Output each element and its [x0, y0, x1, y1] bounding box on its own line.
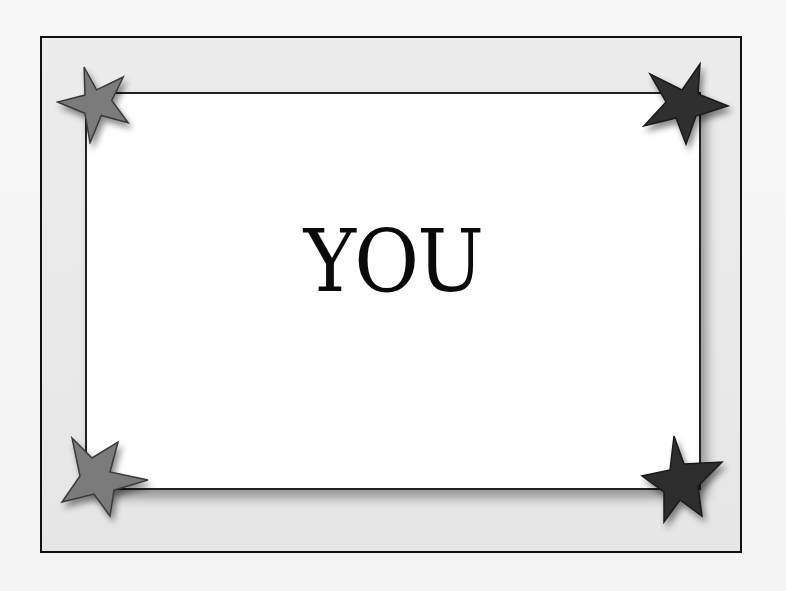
star-icon-bottom-left: [58, 436, 154, 522]
page: YOU: [0, 0, 786, 591]
star-icon-bottom-right: [640, 434, 730, 524]
star-icon-top-left: [56, 64, 136, 144]
star-icon-top-right: [640, 60, 732, 148]
card-text: YOU: [31, 218, 754, 304]
